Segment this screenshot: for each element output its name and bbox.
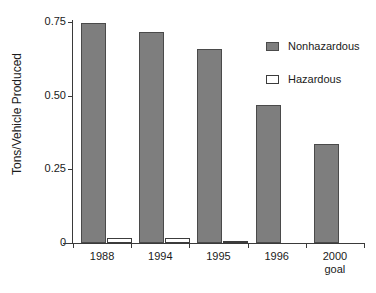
x-category-label: 1988 [73,250,131,263]
bar-hazardous-1988 [107,238,132,243]
legend-item-nonhazardous: Nonhazardous [266,40,360,52]
bar-chart-figure: Tons/Vehicle Produced 00.250.500.75 1988… [0,0,376,293]
x-tick-mark [131,243,132,248]
y-tick-label: 0.50 [45,90,66,101]
bar-nonhazardous-1996 [256,105,281,243]
x-category-label: 1995 [189,250,247,263]
bar-hazardous-1994 [165,238,190,243]
x-tick-mark [248,243,249,248]
y-tick-label: 0.25 [45,163,66,174]
legend-item-hazardous: Hazardous [266,73,360,85]
x-tick-mark [73,243,74,248]
bar-nonhazardous-2000-goal [314,144,339,243]
legend-label: Hazardous [288,74,341,85]
y-tick-label-wrap: 0 [0,237,66,248]
bar-nonhazardous-1994 [139,32,164,243]
y-tick-label-wrap: 0.75 [0,16,66,27]
bar-group [131,22,189,243]
x-category-label: 2000 goal [306,250,364,276]
x-axis-line [63,243,364,244]
bar-nonhazardous-1988 [81,23,106,243]
legend-label: Nonhazardous [288,41,360,52]
bar-nonhazardous-1995 [197,49,222,243]
x-category-label: 1994 [131,250,189,263]
chart-legend: NonhazardousHazardous [266,40,360,106]
bar-hazardous-1995 [223,241,248,243]
y-tick-label: 0.75 [45,16,66,27]
x-tick-mark [306,243,307,248]
x-tick-mark [189,243,190,248]
x-category-label: 1996 [248,250,306,263]
hollow-square-icon [266,75,279,84]
bar-group [189,22,247,243]
y-tick-label-wrap: 0.25 [0,163,66,174]
bar-group [73,22,131,243]
filled-square-icon [266,42,279,51]
x-tick-mark [364,243,365,248]
y-tick-label-wrap: 0.50 [0,90,66,101]
